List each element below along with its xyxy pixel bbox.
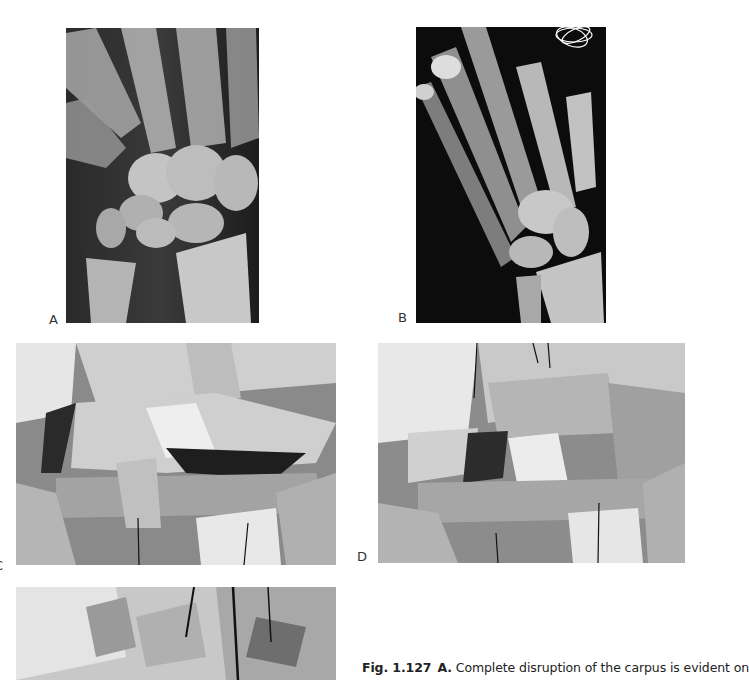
surgical-photo-e [16,587,336,680]
panel-a-label: A [49,313,58,326]
surgical-photo-d [378,343,685,563]
panel-c-surgical-photo [16,343,336,565]
panel-d-label: D [357,550,367,563]
panel-b-radiograph [416,27,606,323]
hand-xray-image [416,27,606,323]
wrist-xray-image [66,28,259,323]
caption-text: Complete disruption of the carpus is evi… [452,660,749,675]
panel-b-label: B [398,311,407,324]
caption-part-label: A. [437,660,451,675]
figure-number: Fig. 1.127 [362,660,431,675]
surgical-photo-c [16,343,336,565]
figure-caption: Fig. 1.127A. Complete disruption of the … [362,660,749,675]
panel-e-surgical-photo [16,587,336,680]
panel-a-radiograph [66,28,259,323]
panel-d-surgical-photo [378,343,685,563]
panel-c-label: C [0,559,3,572]
